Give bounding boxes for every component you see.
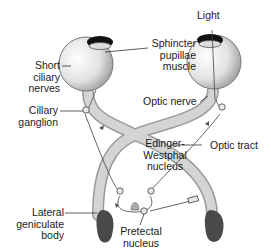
label-ciliary-ganglion: Cillaryganglion	[6, 105, 58, 128]
synapse	[188, 196, 199, 203]
left-eye	[59, 36, 113, 91]
right-ew-nucleus	[148, 188, 154, 194]
label-optic-nerve: Optic nerve	[143, 96, 197, 108]
label-lateral-geniculate: Lateralgeniculatebody	[8, 207, 64, 242]
label-optic-tract: Optic tract	[210, 140, 258, 152]
label-sphincter: Sphincterpupillaemuscle	[150, 38, 196, 73]
pretectal-nucleus-node	[141, 208, 147, 214]
right-lateral-geniculate-body	[205, 210, 224, 242]
label-light: Light	[197, 10, 220, 22]
right-ciliary-ganglion	[219, 104, 225, 110]
label-edinger-westphal: Edinger-Westphalnucleus	[135, 138, 195, 173]
left-ew-nucleus	[117, 188, 123, 194]
label-short-ciliary: Shortciliarynerves	[14, 60, 60, 95]
left-ciliary-ganglion	[83, 107, 89, 113]
aqueduct	[131, 203, 139, 211]
left-lateral-geniculate-body	[97, 210, 114, 243]
label-pretectal: Pretectalnucleus	[113, 226, 169, 249]
